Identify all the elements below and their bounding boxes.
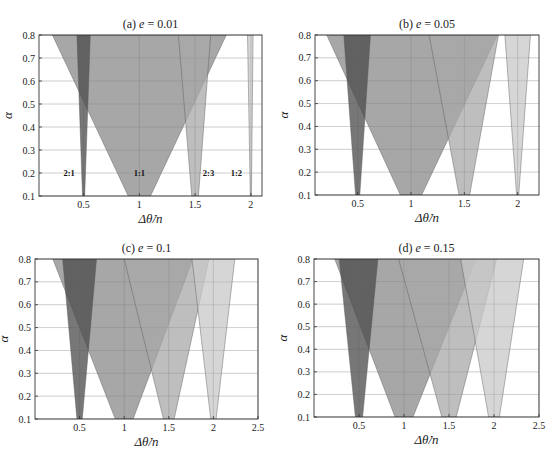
panel-title: (a) e = 0.01 <box>123 17 178 31</box>
x-axis-label: Δθ̇/n <box>137 211 162 226</box>
y-tick-label: 0.1 <box>298 412 311 423</box>
resonance-label-2-1: 2:1 <box>63 168 74 178</box>
panel-title: (d) e = 0.15 <box>398 241 454 255</box>
panel-title-prefix: (a) <box>123 17 139 31</box>
panel-title-value: = 0.05 <box>424 17 455 31</box>
y-tick-label: 0.3 <box>23 145 36 156</box>
panel-title-var: e <box>139 17 147 31</box>
x-tick-label: 2 <box>211 422 216 433</box>
x-tick-label: 1 <box>402 420 407 431</box>
panel-title-value: = 0.01 <box>147 17 178 31</box>
panel-title-prefix: (b) <box>399 17 416 31</box>
x-tick-label: 1.5 <box>189 199 202 210</box>
y-axis-label: α <box>0 111 15 119</box>
y-tick-label: 0.4 <box>23 122 36 133</box>
y-tick-label: 0.8 <box>23 30 36 41</box>
x-tick-label: 1.5 <box>458 198 471 209</box>
panel-c: 0.10.20.30.40.50.60.70.80.511.522.5(c) e… <box>0 241 264 449</box>
resonance-label-1-1: 1:1 <box>134 168 145 178</box>
y-tick-label: 0.6 <box>298 299 311 310</box>
panel-title: (c) e = 0.1 <box>122 241 171 255</box>
x-tick-label: 2.5 <box>252 422 265 433</box>
x-tick-label: 1.5 <box>163 422 176 433</box>
y-tick-label: 0.7 <box>299 52 312 63</box>
y-tick-label: 0.4 <box>299 121 312 132</box>
y-axis-label: α <box>276 110 291 118</box>
y-tick-label: 0.2 <box>298 389 311 400</box>
panel-title-var: e <box>138 241 146 255</box>
x-tick-label: 2 <box>248 199 253 210</box>
x-tick-label: 2.5 <box>533 420 546 431</box>
x-axis-label: Δθ̇/n <box>133 434 158 449</box>
y-tick-label: 0.3 <box>19 368 32 379</box>
x-tick-label: 2 <box>515 198 520 209</box>
y-tick-label: 0.1 <box>19 414 32 425</box>
panel-title-prefix: (c) <box>122 241 138 255</box>
resonance-label-2-3: 2:3 <box>203 168 214 178</box>
y-tick-label: 0.7 <box>298 276 311 287</box>
panel-a: 1:12:12:31:20.10.20.30.40.50.60.70.80.51… <box>0 17 262 226</box>
panel-b: 0.10.20.30.40.50.60.70.80.511.52(b) e = … <box>276 17 539 225</box>
panel-title-prefix: (d) <box>398 241 415 255</box>
x-tick-label: 1 <box>122 422 127 433</box>
x-tick-label: 2 <box>492 420 497 431</box>
resonance-figure: 1:12:12:31:20.10.20.30.40.50.60.70.80.51… <box>0 0 556 459</box>
y-tick-label: 0.8 <box>298 254 311 265</box>
y-tick-label: 0.6 <box>23 76 36 87</box>
y-tick-label: 0.8 <box>19 254 32 265</box>
x-tick-label: 0.5 <box>77 199 90 210</box>
resonance-label-1-2: 1:2 <box>231 168 242 178</box>
panel-d: 0.10.20.30.40.50.60.70.80.511.522.5(d) e… <box>275 241 545 447</box>
panel-title-var: e <box>416 17 424 31</box>
x-tick-label: 0.5 <box>351 198 364 209</box>
y-tick-label: 0.7 <box>19 276 32 287</box>
x-axis-label: Δθ̇/n <box>413 432 438 447</box>
y-tick-label: 0.2 <box>19 391 32 402</box>
y-tick-label: 0.6 <box>19 299 32 310</box>
y-tick-label: 0.7 <box>23 53 36 64</box>
y-tick-label: 0.5 <box>23 99 36 110</box>
y-tick-label: 0.4 <box>19 345 32 356</box>
panel-title-value: = 0.1 <box>146 241 171 255</box>
panel-title: (b) e = 0.05 <box>399 17 455 31</box>
y-tick-label: 0.1 <box>23 191 36 202</box>
x-tick-label: 1.5 <box>443 420 456 431</box>
y-axis-label: α <box>275 333 290 341</box>
x-tick-label: 0.5 <box>353 420 366 431</box>
panel-title-var: e <box>415 241 423 255</box>
y-tick-label: 0.3 <box>299 144 312 155</box>
y-tick-label: 0.4 <box>298 344 311 355</box>
x-tick-label: 1 <box>137 199 142 210</box>
y-axis-label: α <box>0 334 11 342</box>
x-axis-label: Δθ̇/n <box>414 210 439 225</box>
panel-title-value: = 0.15 <box>424 241 455 255</box>
y-tick-label: 0.5 <box>19 322 32 333</box>
y-tick-label: 0.8 <box>299 30 312 41</box>
y-tick-label: 0.2 <box>23 168 36 179</box>
y-tick-label: 0.2 <box>299 167 312 178</box>
x-tick-label: 1 <box>409 198 414 209</box>
x-tick-label: 0.5 <box>73 422 86 433</box>
y-tick-label: 0.1 <box>299 190 312 201</box>
y-tick-label: 0.5 <box>298 321 311 332</box>
y-tick-label: 0.5 <box>299 98 312 109</box>
y-tick-label: 0.6 <box>299 75 312 86</box>
y-tick-label: 0.3 <box>298 366 311 377</box>
